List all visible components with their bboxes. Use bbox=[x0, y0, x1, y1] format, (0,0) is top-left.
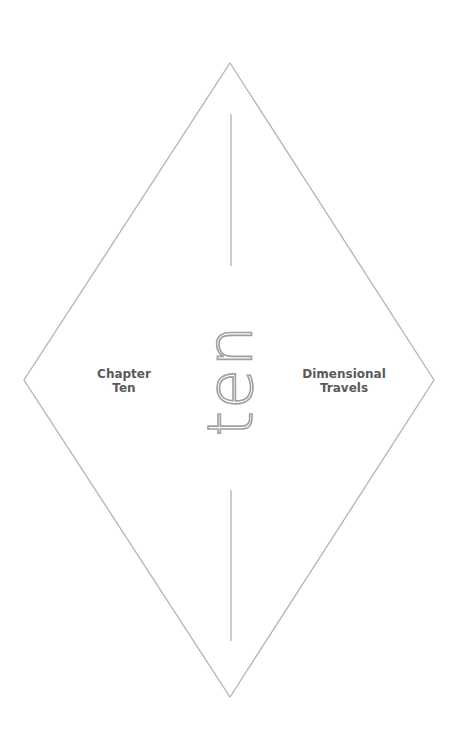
chapter-number-word-text: ten bbox=[200, 323, 262, 436]
chapter-label-line-1: Chapter bbox=[64, 367, 184, 381]
chapter-title-line-1: Dimensional bbox=[284, 367, 404, 381]
chapter-title-label: Dimensional Travels bbox=[284, 367, 404, 395]
chapter-title-page: Chapter Ten Dimensional Travels ten bbox=[0, 0, 462, 751]
chapter-number-word: ten bbox=[200, 326, 262, 434]
chapter-title-line-2: Travels bbox=[284, 381, 404, 395]
chapter-label-line-2: Ten bbox=[64, 381, 184, 395]
chapter-number-label: Chapter Ten bbox=[64, 367, 184, 395]
